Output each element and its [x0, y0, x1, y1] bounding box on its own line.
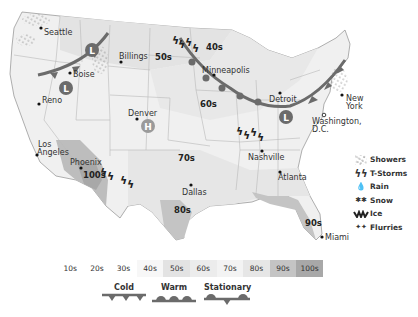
svg-text:L: L [283, 113, 289, 123]
stationary-front-icon [204, 293, 250, 305]
city-nashville: Nashville [248, 153, 285, 162]
rain-icon: 💧 [352, 182, 370, 191]
city-denver: Denver [128, 109, 158, 118]
city-new-york-line2: York [345, 102, 363, 111]
high-pressure: H [141, 119, 155, 133]
warm-front-icon [152, 293, 196, 303]
city-seattle: Seattle [44, 28, 72, 37]
city-los-angeles-line2: Angeles [37, 148, 69, 157]
temp-label-70s: 70s [178, 153, 195, 163]
precip-legend: Showers ϟϟ T-Storms 💧 Rain ✱✱ Snow Ice ✦… [352, 153, 407, 234]
temp-band-40s: 40s [137, 260, 164, 277]
svg-text:ϟ: ϟ [127, 178, 134, 191]
legend-cold-front: Cold [102, 283, 146, 303]
svg-text:ϟ: ϟ [192, 42, 199, 55]
tstorms-icon: ϟϟ [352, 168, 370, 179]
flurries-icon: ✦✦ [352, 223, 370, 231]
temp-band-10s: 10s [57, 260, 84, 277]
showers-icon [352, 155, 370, 165]
temp-label-100s: 100s [83, 170, 106, 180]
legend-snow: ✱✱ Snow [352, 194, 407, 208]
legend-showers: Showers [352, 153, 407, 167]
city-minneapolis: Minneapolis [202, 66, 250, 75]
legend-warm-front: Warm [152, 283, 196, 303]
city-washington-line2: D.C. [312, 125, 329, 134]
temp-label-50s: 50s [155, 52, 172, 62]
city-dallas: Dallas [182, 188, 207, 197]
temp-band-100s: 100s [296, 260, 323, 277]
low-pressure-3: L [279, 110, 293, 124]
ice-icon [352, 210, 370, 218]
city-atlanta: Atlanta [278, 173, 307, 182]
city-detroit: Detroit [269, 95, 297, 104]
legend-stationary-front: Stationary [204, 283, 250, 305]
temperature-legend: 10s 20s 30s 40s 50s 60s 70s 80s 90s 100s [57, 260, 323, 277]
legend-tstorms: ϟϟ T-Storms [352, 167, 407, 181]
city-phoenix: Phoenix [70, 158, 102, 167]
city-reno: Reno [42, 96, 62, 105]
temp-label-40s: 40s [206, 42, 223, 52]
svg-text:ϟ: ϟ [257, 131, 264, 144]
cold-front-icon [102, 293, 146, 303]
temp-band-50s: 50s [163, 260, 190, 277]
city-boise: Boise [73, 70, 95, 79]
temp-band-90s: 90s [270, 260, 297, 277]
city-billings: Billings [119, 52, 148, 61]
temp-label-90s: 90s [305, 218, 322, 228]
svg-text:H: H [144, 122, 152, 132]
legend-flurries: ✦✦ Flurries [352, 221, 407, 235]
temp-band-30s: 30s [110, 260, 137, 277]
temp-band-80s: 80s [243, 260, 270, 277]
city-miami: Miami [325, 233, 349, 242]
svg-text:L: L [63, 84, 69, 94]
svg-text:L: L [89, 46, 95, 56]
legend-rain: 💧 Rain [352, 180, 407, 194]
temp-label-80s: 80s [174, 205, 191, 215]
temp-band-20s: 20s [84, 260, 111, 277]
temp-band-60s: 60s [190, 260, 217, 277]
temp-label-60s: 60s [200, 99, 217, 109]
low-pressure-1: L [85, 43, 99, 57]
temp-band-70s: 70s [217, 260, 244, 277]
svg-text:ϟ: ϟ [107, 170, 114, 183]
legend-ice: Ice [352, 207, 407, 221]
low-pressure-2: L [59, 81, 73, 95]
snow-icon: ✱✱ [352, 196, 370, 204]
